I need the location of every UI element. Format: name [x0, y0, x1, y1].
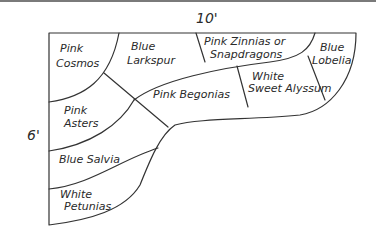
bed-label-zinnias-1: Pink Zinnias or — [204, 35, 287, 48]
width-dimension-label: 10' — [196, 10, 218, 26]
bed-label-pink-begonias: Pink Begonias — [153, 88, 230, 101]
bed-label-pink-cosmos-2: Cosmos — [56, 57, 100, 70]
bed-label-sweet-alyssum-2: Sweet Alyssum — [248, 82, 332, 95]
bed-label-blue-larkspur-2: Larkspur — [127, 54, 176, 67]
bed-label-blue-salvia: Blue Salvia — [59, 153, 120, 166]
bed-label-pink-cosmos-1: Pink — [60, 42, 84, 55]
bed-label-blue-larkspur-1: Blue — [131, 40, 156, 53]
bed-label-pink-asters-1: Pink — [64, 104, 88, 117]
garden-plan-drawing: 10' 6' Pink Cosmos Blue Larkspur Pink Zi… — [0, 0, 376, 242]
height-dimension-label: 6' — [27, 127, 40, 143]
bed-label-blue-lobelia-1: Blue — [320, 41, 345, 54]
bed-label-zinnias-2: Snapdragons — [210, 48, 283, 61]
bed-label-pink-asters-2: Asters — [63, 117, 99, 130]
divider-alyssum-left — [237, 66, 248, 107]
bed-label-white-petunias-2: Petunias — [64, 200, 111, 213]
garden-plan-diagram: 10' 6' Pink Cosmos Blue Larkspur Pink Zi… — [0, 0, 376, 242]
bed-label-blue-lobelia-2: Lobelia — [312, 54, 352, 67]
